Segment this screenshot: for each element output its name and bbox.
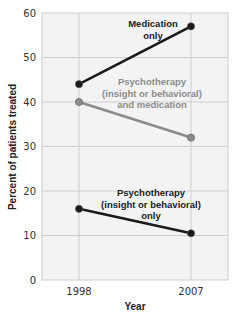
y-tick: 0 — [30, 275, 36, 286]
x-tick-labels: 19982007 — [66, 286, 203, 297]
series-label: only — [143, 30, 163, 41]
x-axis-label: Year — [124, 301, 145, 312]
series-label: and medication — [117, 99, 187, 110]
series-label: Psychotherapy — [117, 187, 186, 198]
y-tick: 10 — [23, 230, 36, 241]
series-label: Medication — [128, 18, 178, 29]
data-point-marker — [187, 134, 194, 141]
y-tick: 60 — [23, 8, 36, 19]
series-label: (insight or behavioral) — [102, 88, 202, 99]
x-tick: 2007 — [178, 286, 203, 297]
data-point-marker — [75, 98, 82, 105]
data-point-marker — [75, 205, 82, 212]
y-tick: 20 — [23, 186, 36, 197]
y-tick: 40 — [23, 97, 36, 108]
x-tick: 1998 — [66, 286, 91, 297]
y-tick: 30 — [23, 141, 36, 152]
line-chart: 0102030405060 19982007 MedicationonlyPsy… — [0, 0, 238, 322]
data-point-marker — [187, 23, 194, 30]
y-axis-label: Percent of patients treated — [7, 84, 18, 210]
y-tick: 50 — [23, 52, 36, 63]
y-tick-labels: 0102030405060 — [23, 8, 36, 286]
series-label: only — [141, 210, 161, 221]
series-label: Psychotherapy — [118, 76, 187, 87]
series-label: (insight or behavioral) — [101, 199, 201, 210]
data-point-marker — [75, 81, 82, 88]
data-point-marker — [187, 230, 194, 237]
